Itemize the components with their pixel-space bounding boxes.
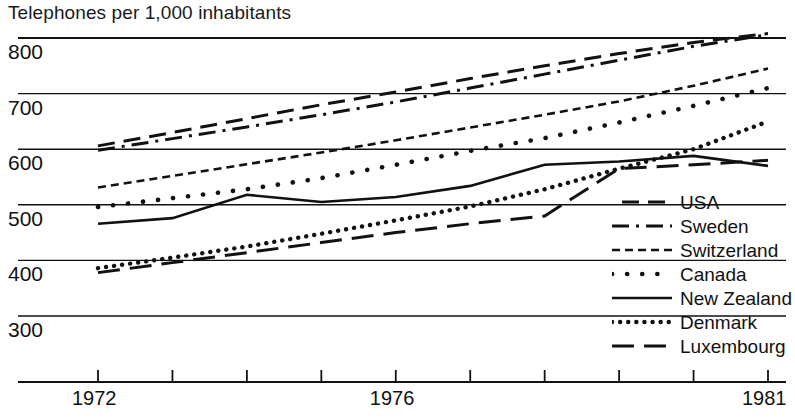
legend-key-sparse-dots-icon xyxy=(612,267,674,281)
legend-label: Switzerland xyxy=(680,241,778,260)
legend-item-switzerland[interactable]: Switzerland xyxy=(612,238,790,262)
legend-label: Canada xyxy=(680,265,747,284)
legend-key-solid-icon xyxy=(612,291,674,305)
y-tick-label-700: 700 xyxy=(8,97,43,118)
chart-root: Telephones per 1,000 inhabitants 8007006… xyxy=(0,0,795,420)
legend-label: Denmark xyxy=(680,313,757,332)
legend-label: Luxembourg xyxy=(680,337,786,356)
legend-key-dense-dots-icon xyxy=(612,315,674,329)
legend-item-sweden[interactable]: Sweden xyxy=(612,214,790,238)
y-tick-label-600: 600 xyxy=(8,152,43,173)
y-tick-label-300: 300 xyxy=(8,319,43,340)
chart-legend: USASwedenSwitzerlandCanadaNew ZealandDen… xyxy=(612,190,790,358)
y-tick-label-800: 800 xyxy=(8,41,43,62)
legend-item-luxembourg[interactable]: Luxembourg xyxy=(612,334,790,358)
legend-item-usa[interactable]: USA xyxy=(612,190,790,214)
legend-label: New Zealand xyxy=(680,289,792,308)
legend-key-long-dash-icon xyxy=(612,339,674,353)
legend-key-dashed-icon xyxy=(612,195,674,209)
x-tick-label-1976: 1976 xyxy=(370,388,415,408)
legend-item-canada[interactable]: Canada xyxy=(612,262,790,286)
y-tick-label-400: 400 xyxy=(8,263,43,284)
legend-key-dash-dot-icon xyxy=(612,219,674,233)
x-tick-label-1981: 1981 xyxy=(742,388,787,408)
legend-label: Sweden xyxy=(680,217,749,236)
legend-item-new-zealand[interactable]: New Zealand xyxy=(612,286,790,310)
legend-key-short-dash-icon xyxy=(612,243,674,257)
legend-label: USA xyxy=(680,193,719,212)
x-tick-label-1972: 1972 xyxy=(72,388,117,408)
y-tick-label-500: 500 xyxy=(8,208,43,229)
legend-item-denmark[interactable]: Denmark xyxy=(612,310,790,334)
